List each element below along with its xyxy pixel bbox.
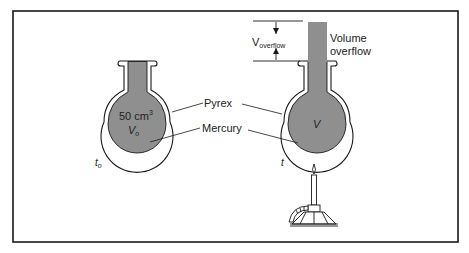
left-volume-value: 50 cm3 (119, 109, 153, 122)
overflow-symbol: Voverflow (252, 36, 286, 49)
pyrex-label: Pyrex (204, 97, 233, 109)
overflow-dimension (253, 21, 303, 61)
overflow-column (308, 22, 327, 62)
bunsen-burner-icon (289, 164, 338, 226)
overflow-label-line1: Volume (330, 32, 367, 44)
mercury-label: Mercury (202, 122, 242, 134)
diagram-canvas: Pyrex Mercury 50 cm3 Vo to V t Voverflow… (0, 0, 469, 253)
right-temp-label: t (281, 157, 285, 168)
left-temp-label: to (95, 157, 102, 169)
overflow-label-line2: overflow (330, 45, 371, 57)
